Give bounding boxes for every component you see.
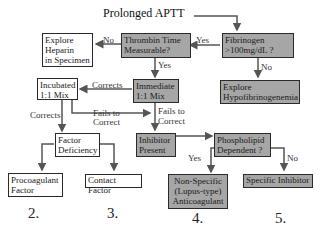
outcome-number-5: 5.	[275, 210, 286, 227]
node-contact-factor: Contact Factor	[85, 174, 142, 188]
node-text: Anticoagulant	[171, 196, 225, 206]
outcome-number-3: 3.	[107, 205, 118, 222]
node-text: Hypofibrinogenemia	[223, 92, 297, 102]
node-text: Procoagulant	[11, 175, 60, 185]
outcome-number-4: 4.	[192, 210, 203, 227]
node-text: 1:1 Mix	[40, 90, 75, 100]
node-immediate-mix: Immediate 1:1 Mix	[133, 79, 179, 103]
node-text: >100mg/dL ?	[225, 45, 291, 55]
node-text: Deficiency	[58, 145, 97, 155]
node-text: Dependent ?	[217, 145, 268, 155]
edge-label-incubated-corrects: Corrects	[30, 110, 61, 120]
node-specific-inhibitor: Specific Inhibitor	[243, 174, 313, 188]
node-text: Non-Specific	[171, 176, 225, 186]
edge-label-thrombin-yes: Yes	[158, 60, 171, 70]
node-procoagulant-factor: Procoagulant Factor	[8, 173, 63, 197]
node-text: Factor	[58, 135, 97, 145]
node-text: Immediate	[136, 81, 176, 91]
node-incubated-mix: Incubated 1:1 Mix	[37, 78, 78, 100]
edge-label-incubated-fails-2: Correct	[93, 117, 120, 127]
node-explore-hypofibrinogenemia: Explore Hypofibrinogenemia	[220, 80, 300, 104]
edge-label-thrombin-no: No	[103, 35, 114, 45]
node-inhibitor-present: Inhibitor Present	[136, 133, 176, 157]
node-text: Factor	[11, 185, 60, 195]
node-nonspecific-anticoagulant: Non-Specific (Lupus-type) Anticoagulant	[168, 174, 228, 209]
node-text: Specific Inhibitor	[246, 175, 310, 185]
outcome-number-2: 2.	[28, 205, 39, 222]
node-text: 1:1 Mix	[136, 91, 176, 101]
node-text: Contact Factor	[88, 175, 139, 195]
edge-label-immediate-fails-2: Correct	[158, 116, 185, 126]
flowchart-title: Prolonged APTT	[103, 6, 185, 21]
edge-label-phospholipid-yes: Yes	[188, 153, 201, 163]
node-text: Explore	[45, 35, 90, 45]
node-text: Inhibitor	[139, 135, 173, 145]
node-text: Explore	[223, 82, 297, 92]
edge-label-immediate-fails: Fails to	[158, 106, 185, 116]
edge-label-phospholipid-no: No	[287, 153, 298, 163]
node-thrombin-time: Thrombin Time Measurable?	[121, 33, 191, 58]
node-phospholipid-dependent: Phospholipid Dependent ?	[214, 133, 271, 157]
node-text: (Lupus-type)	[171, 186, 225, 196]
node-text: in Specimen	[45, 55, 90, 65]
edge-label-fibrinogen-yes: Yes	[196, 35, 209, 45]
node-text: Present	[139, 145, 173, 155]
node-text: Incubated	[40, 80, 75, 90]
node-text: Heparin	[45, 45, 90, 55]
node-explore-heparin: Explore Heparin in Specimen	[42, 33, 93, 67]
node-text: Phospholipid	[217, 135, 268, 145]
node-fibrinogen: Fibrinogen >100mg/dL ?	[222, 33, 294, 58]
node-text: Fibrinogen	[225, 35, 291, 45]
node-factor-deficiency: Factor Deficiency	[55, 133, 100, 157]
node-text: Thrombin Time	[124, 35, 188, 45]
edge-label-fibrinogen-no: No	[261, 62, 272, 72]
node-text: Measurable?	[124, 45, 188, 55]
edge-label-immediate-corrects: Corrects	[92, 80, 123, 90]
